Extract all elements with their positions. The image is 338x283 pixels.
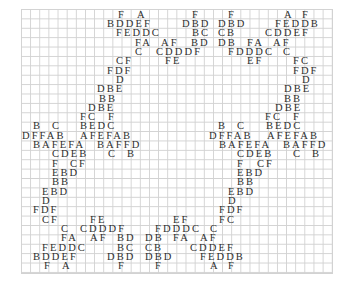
letter-group: FE bbox=[165, 56, 181, 66]
letter-group: F bbox=[228, 261, 236, 271]
letter-group: FA bbox=[173, 233, 190, 243]
letter-group: B bbox=[127, 149, 136, 159]
letter-group: EF bbox=[247, 56, 263, 66]
letter-group: B bbox=[312, 149, 321, 159]
letter-group: CF bbox=[42, 215, 59, 225]
letter-group: AF bbox=[90, 233, 108, 243]
letter-group: F bbox=[155, 261, 163, 271]
letter-group: F bbox=[44, 261, 52, 271]
letter-group: C bbox=[283, 47, 292, 57]
letter-group: A bbox=[210, 261, 220, 271]
letter-group: F bbox=[118, 261, 126, 271]
letter-group: C bbox=[135, 47, 144, 57]
letter-group: C bbox=[293, 149, 302, 159]
letter-group: FEDDB bbox=[200, 252, 245, 262]
letter-group: C bbox=[108, 149, 117, 159]
letter-group: A bbox=[62, 261, 72, 271]
letter-group: FC bbox=[219, 215, 236, 225]
